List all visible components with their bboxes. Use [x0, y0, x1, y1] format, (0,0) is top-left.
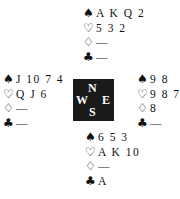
- south-spades: ♠6 5 3: [85, 130, 140, 145]
- compass-box: N W E S: [73, 79, 114, 121]
- north-spades: ♠A K Q 2: [83, 6, 145, 21]
- west-hearts: ♡Q J 6: [3, 87, 64, 102]
- spade-icon: ♠: [85, 130, 98, 145]
- south-hand: ♠6 5 3 ♡A K 10 ♢— ♣A: [85, 130, 140, 188]
- heart-icon: ♡: [137, 87, 150, 102]
- compass-north: N: [88, 82, 97, 94]
- heart-icon: ♡: [3, 87, 16, 102]
- east-diamonds: ♢8: [137, 101, 180, 116]
- spade-icon: ♠: [3, 72, 16, 87]
- diamond-icon: ♢: [85, 159, 98, 174]
- spade-icon: ♠: [83, 6, 96, 21]
- south-clubs: ♣A: [85, 174, 140, 189]
- club-icon: ♣: [83, 50, 96, 65]
- north-hearts: ♡5 3 2: [83, 21, 145, 36]
- west-clubs: ♣—: [3, 116, 64, 131]
- east-hand: ♠9 8 ♡9 8 7 4 ♢8 ♣—: [137, 72, 180, 130]
- spade-icon: ♠: [137, 72, 150, 87]
- north-diamonds: ♢—: [83, 35, 145, 50]
- diamond-icon: ♢: [3, 101, 16, 116]
- south-diamonds: ♢—: [85, 159, 140, 174]
- diamond-icon: ♢: [137, 101, 150, 116]
- east-hearts: ♡9 8 7 4: [137, 87, 180, 102]
- club-icon: ♣: [137, 116, 150, 131]
- west-diamonds: ♢—: [3, 101, 64, 116]
- club-icon: ♣: [3, 116, 16, 131]
- compass-south: S: [89, 106, 96, 118]
- heart-icon: ♡: [85, 145, 98, 160]
- club-icon: ♣: [85, 174, 98, 189]
- heart-icon: ♡: [83, 21, 96, 36]
- west-hand: ♠J 10 7 4 ♡Q J 6 ♢— ♣—: [3, 72, 64, 130]
- east-clubs: ♣—: [137, 116, 180, 131]
- south-hearts: ♡A K 10: [85, 145, 140, 160]
- compass-west: W: [76, 94, 88, 106]
- west-spades: ♠J 10 7 4: [3, 72, 64, 87]
- compass-east: E: [102, 94, 110, 106]
- north-clubs: ♣—: [83, 50, 145, 65]
- north-hand: ♠A K Q 2 ♡5 3 2 ♢— ♣—: [83, 6, 145, 64]
- east-spades: ♠9 8: [137, 72, 180, 87]
- diamond-icon: ♢: [83, 35, 96, 50]
